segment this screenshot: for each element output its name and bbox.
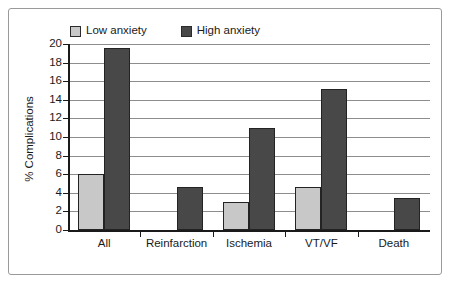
y-axis-tick-label: 4 [56,187,62,199]
bar [249,128,275,230]
x-axis-tick-label: Death [378,238,409,250]
y-axis-tick-label: 16 [49,75,62,87]
y-axis-tick-label: 12 [49,112,62,124]
legend-entry-low-anxiety: Low anxiety [70,25,147,37]
x-axis-tick-mark [358,232,359,237]
y-axis-tick-label: 20 [49,38,62,50]
x-axis-tick-label: Reinfarction [146,238,207,250]
legend-swatch-low-anxiety [70,26,81,37]
legend-label-high-anxiety: High anxiety [197,25,260,37]
bar-group [140,44,212,230]
chart-legend: Low anxiety High anxiety [70,23,260,39]
legend-swatch-high-anxiety [181,26,192,37]
y-axis-tick-label: 18 [49,57,62,69]
y-axis-tick-label: 2 [56,205,62,217]
x-axis-tick-labels: AllReinfarctionIschemiaVT/VFDeath [68,238,430,256]
x-axis-tick-mark [140,232,141,237]
bar [78,174,104,230]
bar [295,187,321,230]
chart-figure: Low anxiety High anxiety % Complications… [0,0,452,285]
bar [223,202,249,230]
plot-area [68,44,430,232]
legend-label-low-anxiety: Low anxiety [86,25,147,37]
x-axis-tick-label: Ischemia [226,238,272,250]
bar [394,198,420,230]
x-axis-tick-mark [285,232,286,237]
y-axis-title-text: % Complications [23,96,35,182]
x-axis-tick-label: VT/VF [305,238,338,250]
y-axis-tick-label: 14 [49,94,62,106]
y-axis-tick-label: 0 [56,224,62,236]
bar [177,187,203,230]
y-axis-tick-label: 8 [56,150,62,162]
y-axis-line [68,44,70,232]
bar-group [213,44,285,230]
y-axis-tick-label: 10 [49,131,62,143]
bar-group [285,44,357,230]
y-axis-tick-label: 6 [56,168,62,180]
x-axis-tick-mark [213,232,214,237]
x-axis-line [68,230,430,232]
y-axis-title: % Complications [22,48,36,230]
bar [321,89,347,230]
bar-group [358,44,430,230]
bar-group [68,44,140,230]
legend-entry-high-anxiety: High anxiety [181,25,260,37]
bar [104,48,130,230]
y-axis-tick-labels: 02468101214161820 [38,44,62,232]
x-axis-tick-label: All [98,238,111,250]
